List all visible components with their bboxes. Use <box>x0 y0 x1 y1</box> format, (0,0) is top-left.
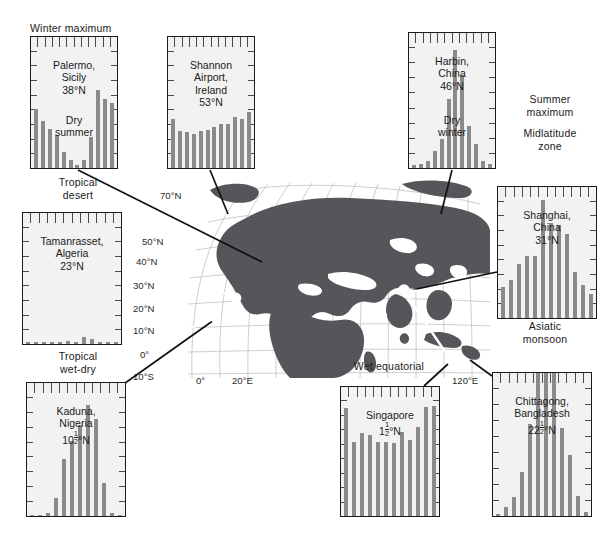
map-lat-label-40n: 40°N <box>136 256 157 267</box>
bar-M <box>46 513 50 517</box>
bar-J <box>74 342 78 345</box>
bar-F <box>419 164 423 168</box>
bar-A <box>433 151 437 168</box>
map-lat-label-70n: 70°N <box>160 190 181 201</box>
bar-F <box>352 442 356 516</box>
bar-D <box>247 112 251 168</box>
bar-D <box>118 515 122 516</box>
annotation-midlatitude-zone: Midlatitude zone <box>498 127 602 152</box>
annotation-tropical-desert: Tropical desert <box>22 176 134 201</box>
bar-A <box>192 134 196 168</box>
bar-F <box>34 342 38 344</box>
bar-M <box>62 152 66 168</box>
climograph-title: Chittagong,Bangladesh2212°N <box>493 395 591 436</box>
climograph-title: ShannonAirport,Ireland53°N <box>168 59 254 108</box>
annotation-winter-maximum: Winter maximum <box>30 22 160 35</box>
bar-D <box>584 512 588 516</box>
bar-J <box>212 127 216 168</box>
bar-F <box>178 131 182 168</box>
bar-M <box>185 132 189 168</box>
climograph-palermo: Palermo,Sicily38°NDrysummer <box>30 36 118 169</box>
map-lat-label-30n: 30°N <box>133 280 154 291</box>
bar-O <box>474 144 478 168</box>
bar-A <box>54 498 58 516</box>
climograph-title: Kaduna,Nigeria1012°N <box>27 405 125 446</box>
climograph-title: Tamanrasset,Algeria23°N <box>23 235 121 272</box>
bar-J <box>206 130 210 168</box>
bar-A <box>82 160 86 168</box>
bar-O <box>568 455 572 516</box>
bar-O <box>233 117 237 168</box>
bar-M <box>528 424 532 516</box>
bar-N <box>581 285 585 318</box>
precipitation-bars <box>501 187 593 318</box>
bar-M <box>533 256 537 318</box>
bar-J <box>171 119 175 168</box>
map-lon-label-0: 0° <box>196 375 205 386</box>
bar-A <box>368 435 372 516</box>
climograph-title: Shanghai,China31°N <box>498 209 596 246</box>
climograph-harbin: Harbin,China46°NDrywinter <box>408 32 496 169</box>
bar-M <box>440 139 444 169</box>
climograph-subtitle: Drywinter <box>409 114 495 139</box>
bar-O <box>416 427 420 516</box>
bar-A <box>525 256 529 318</box>
bar-F <box>509 280 513 318</box>
precipitation-bars <box>26 213 118 344</box>
bar-D <box>589 294 593 318</box>
bar-A <box>82 337 86 344</box>
bar-J <box>501 287 505 318</box>
climograph-kaduna: Kaduna,Nigeria1012°N <box>26 382 126 517</box>
annotation-asiatic-monsoon: Asiatic monsoon <box>495 320 595 345</box>
bar-D <box>488 164 492 168</box>
bar-M <box>426 161 430 168</box>
bar-S <box>408 440 412 517</box>
bar-M <box>62 459 66 516</box>
climate-figure: 70°N 50°N 40°N 30°N 20°N 10°N 0° 10°S 0°… <box>0 0 609 537</box>
bar-N <box>110 513 114 516</box>
world-map <box>150 178 490 378</box>
climograph-subtitle: Drysummer <box>31 114 117 139</box>
climograph-title: Singapore112°N <box>341 409 439 437</box>
bar-S <box>90 339 94 344</box>
bar-M <box>517 264 521 318</box>
bar-J <box>26 342 30 345</box>
bar-J <box>496 514 500 516</box>
map-lat-label-10s: 10°S <box>133 371 154 382</box>
bar-A <box>400 432 404 516</box>
precipitation-bars <box>344 387 436 516</box>
bar-J <box>392 443 396 516</box>
bar-A <box>55 135 59 168</box>
map-lat-label-20n: 20°N <box>133 303 154 314</box>
map-lon-label-20e: 20°E <box>232 375 253 386</box>
climograph-title: Palermo,Sicily38°N <box>31 59 117 96</box>
bar-J <box>70 441 74 516</box>
bar-N <box>576 496 580 516</box>
annotation-tropical-wet-dry: Tropical wet-dry <box>22 350 134 375</box>
bar-F <box>504 507 508 517</box>
bar-M <box>360 433 364 516</box>
bar-O <box>98 342 102 345</box>
map-lon-label-120e: 120°E <box>452 375 478 386</box>
bar-N <box>106 342 110 345</box>
bar-S <box>226 124 230 168</box>
bar-D <box>114 342 118 345</box>
bar-A <box>50 342 54 344</box>
bar-J <box>75 165 79 168</box>
climograph-singapore: Singapore112°N <box>340 386 440 517</box>
bar-O <box>573 272 577 319</box>
precipitation-bars <box>30 383 122 516</box>
bar-M <box>42 342 46 345</box>
precipitation-bars <box>34 37 114 168</box>
bar-O <box>102 483 106 516</box>
bar-N <box>481 161 485 168</box>
bar-S <box>89 137 93 168</box>
bar-J <box>69 160 73 168</box>
bar-S <box>560 428 564 517</box>
bar-J <box>412 165 416 168</box>
bar-A <box>219 124 223 168</box>
bar-M <box>376 442 380 516</box>
bar-S <box>565 234 569 318</box>
climograph-tamanrasset: Tamanrasset,Algeria23°N <box>22 212 122 345</box>
climograph-shanghai: Shanghai,China31°N <box>497 186 597 319</box>
